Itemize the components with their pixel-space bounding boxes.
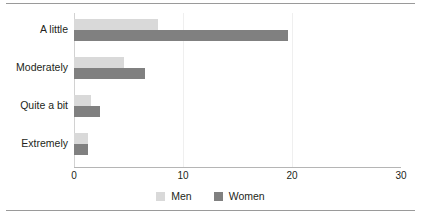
bar-women-extremely[interactable] xyxy=(74,144,88,155)
bar-men-quite-a-bit[interactable] xyxy=(74,95,91,106)
bar-women-quite-a-bit[interactable] xyxy=(74,106,100,117)
xtick-label-10: 10 xyxy=(177,170,188,181)
legend-swatch-men xyxy=(156,192,165,201)
value-axis-line xyxy=(74,167,401,168)
category-label-quite-a-bit: Quite a bit xyxy=(2,100,68,111)
legend-label-women: Women xyxy=(229,190,265,202)
value-axis-tick-labels: 0 10 20 30 xyxy=(0,170,421,186)
legend-item-women[interactable]: Women xyxy=(214,190,265,202)
legend-label-men: Men xyxy=(171,190,191,202)
bar-men-extremely[interactable] xyxy=(74,133,88,144)
xtick-label-0: 0 xyxy=(71,170,77,181)
top-divider-rule xyxy=(6,3,415,4)
xtick-label-20: 20 xyxy=(286,170,297,181)
bottom-divider-rule xyxy=(6,210,415,211)
legend-swatch-women xyxy=(214,192,223,201)
chart-legend: Men Women xyxy=(0,188,421,204)
bar-women-a-little[interactable] xyxy=(74,30,288,41)
gridline-20 xyxy=(292,13,293,167)
chart-figure: A little Moderately Quite a bit Extremel… xyxy=(0,0,421,218)
bar-men-moderately[interactable] xyxy=(74,57,124,68)
category-label-extremely: Extremely xyxy=(2,138,68,149)
category-axis-labels: A little Moderately Quite a bit Extremel… xyxy=(0,13,68,167)
legend-item-men[interactable]: Men xyxy=(156,190,191,202)
plot-area xyxy=(74,13,401,167)
bar-men-a-little[interactable] xyxy=(74,19,158,30)
bar-women-moderately[interactable] xyxy=(74,68,145,79)
xtick-label-30: 30 xyxy=(395,170,406,181)
category-label-moderately: Moderately xyxy=(2,62,68,73)
category-label-a-little: A little xyxy=(2,24,68,35)
